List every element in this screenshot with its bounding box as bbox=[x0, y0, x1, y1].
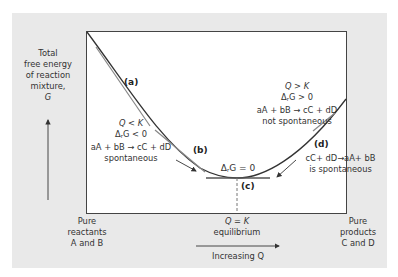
delta-g-zero-label: ΔrG = 0 bbox=[213, 163, 263, 176]
delta-g-text: G > 0 bbox=[289, 92, 313, 102]
delta-g-text: G < 0 bbox=[123, 129, 147, 139]
not-spontaneous-text: not spontaneous bbox=[247, 116, 347, 127]
forward-reaction: aA + bB → cC + dD bbox=[86, 142, 176, 153]
delta-g-negative: ΔrG < 0 bbox=[86, 129, 176, 142]
pure-products-label: Pure products C and D bbox=[333, 216, 383, 249]
pure-reactants-line: A and B bbox=[62, 238, 112, 249]
equilibrium-text: equilibrium bbox=[207, 227, 267, 238]
reverse-reaction-text: cC+ dD→aA+ bB is spontaneous bbox=[298, 153, 383, 175]
equilibrium-label: Q = K equilibrium bbox=[207, 216, 267, 238]
point-d-label: (d) bbox=[314, 139, 329, 149]
left-region-text: Q < K ΔrG < 0 aA + bB → cC + dD spontane… bbox=[86, 118, 176, 164]
x-axis-label: Increasing Q bbox=[203, 251, 273, 262]
pure-products-line: Pure bbox=[333, 216, 383, 227]
reverse-reaction: cC+ dD→aA+ bB bbox=[298, 153, 383, 164]
q-equals-k: Q = K bbox=[207, 216, 267, 227]
spontaneous-text: spontaneous bbox=[86, 153, 176, 164]
pure-products-line: products bbox=[333, 227, 383, 238]
y-axis-label-line: Total bbox=[22, 48, 74, 59]
delta-g-text: G = 0 bbox=[229, 163, 255, 173]
point-a-label: (a) bbox=[124, 77, 138, 87]
q-less-than-k: Q < K bbox=[86, 118, 176, 129]
delta-g-positive: ΔrG > 0 bbox=[247, 92, 347, 105]
point-b-label: (b) bbox=[193, 145, 208, 155]
y-axis-label-line: free energy bbox=[22, 59, 74, 70]
pure-reactants-label: Pure reactants A and B bbox=[62, 216, 112, 249]
pure-reactants-line: reactants bbox=[62, 227, 112, 238]
forward-reaction: aA + bB → cC + dD bbox=[247, 105, 347, 116]
y-axis-label-symbol: G bbox=[22, 92, 74, 103]
right-region-text: Q > K ΔrG > 0 aA + bB → cC + dD not spon… bbox=[247, 81, 347, 127]
q-greater-than-k: Q > K bbox=[247, 81, 347, 92]
y-axis-label: Total free energy of reaction mixture, G bbox=[22, 48, 74, 103]
y-axis-label-line: of reaction bbox=[22, 70, 74, 81]
is-spontaneous-text: is spontaneous bbox=[298, 164, 383, 175]
point-c-label: (c) bbox=[241, 181, 255, 191]
pure-products-line: C and D bbox=[333, 238, 383, 249]
y-axis-label-line: mixture, bbox=[22, 81, 74, 92]
pure-reactants-line: Pure bbox=[62, 216, 112, 227]
